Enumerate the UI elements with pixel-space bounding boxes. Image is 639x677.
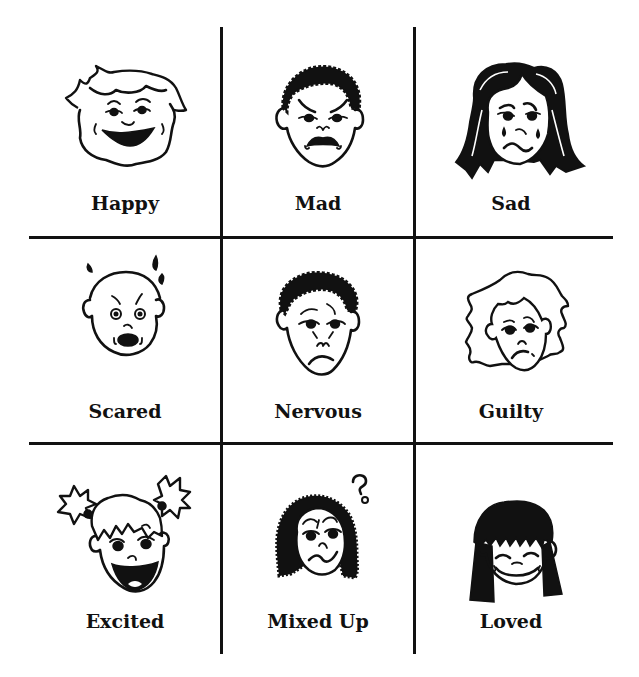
mad-face-icon <box>223 30 413 190</box>
emotion-label-loved: Loved <box>416 610 606 632</box>
emotion-label-nervous: Nervous <box>223 400 413 422</box>
emotion-cell-happy: Happy <box>30 30 220 230</box>
excited-face-icon <box>30 446 220 606</box>
emotion-label-happy: Happy <box>30 192 220 214</box>
scared-face-icon <box>30 240 220 400</box>
mixed-up-face-icon <box>223 446 413 606</box>
emotion-cell-loved: Loved <box>416 446 606 646</box>
loved-face-icon <box>416 446 606 606</box>
emotion-label-guilty: Guilty <box>416 400 606 422</box>
emotion-cell-sad: Sad <box>416 30 606 230</box>
nervous-face-icon <box>223 240 413 400</box>
emotion-cell-mad: Mad <box>223 30 413 230</box>
emotion-cell-nervous: Nervous <box>223 240 413 440</box>
emotion-label-scared: Scared <box>30 400 220 422</box>
sad-face-icon <box>416 30 606 190</box>
emotion-cell-guilty: Guilty <box>416 240 606 440</box>
emotion-cell-excited: Excited <box>30 446 220 646</box>
happy-face-icon <box>30 30 220 190</box>
emotion-cell-mixed-up: Mixed Up <box>223 446 413 646</box>
emotion-label-sad: Sad <box>416 192 606 214</box>
guilty-face-icon <box>416 240 606 400</box>
grid-line-horizontal-2 <box>29 442 613 445</box>
emotion-label-excited: Excited <box>30 610 220 632</box>
emotion-cell-scared: Scared <box>30 240 220 440</box>
emotion-label-mad: Mad <box>223 192 413 214</box>
emotion-label-mixed-up: Mixed Up <box>223 610 413 632</box>
grid-line-horizontal-1 <box>29 236 613 239</box>
